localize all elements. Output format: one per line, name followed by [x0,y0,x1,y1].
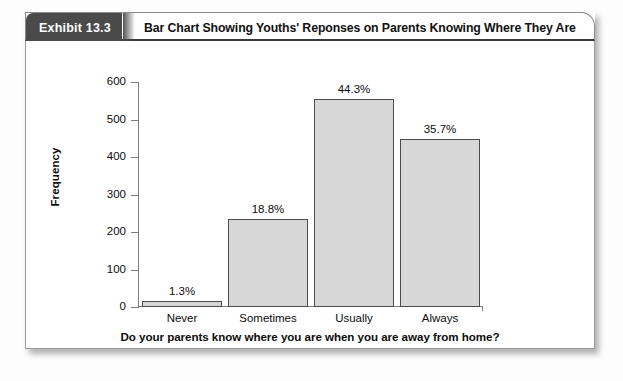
bar-value-label: 18.8% [228,203,308,215]
x-axis-category-label: Sometimes [228,312,308,324]
exhibit-header: Exhibit 13.3 Bar Chart Showing Youths' R… [25,12,595,41]
x-axis-category-label: Always [400,312,480,324]
badge-fade-decoration [123,13,135,42]
exhibit-number-badge: Exhibit 13.3 [26,13,122,42]
bar-chart: Frequency 0100200300400500600 1.3%Never1… [26,41,594,347]
y-axis-tick [131,120,139,121]
y-axis-tick [131,157,139,158]
screenshot-page: Exhibit 13.3 Bar Chart Showing Youths' R… [0,0,623,381]
y-axis-tick [131,195,139,196]
bar-never [142,301,222,307]
exhibit-number-label: Exhibit 13.3 [39,21,111,35]
y-axis-tick [131,307,139,308]
exhibit-title: Bar Chart Showing Youths' Reponses on Pa… [144,13,576,42]
bar-usually [314,99,394,308]
bar-group: 1.3%Never [142,82,222,307]
y-axis-tick [131,232,139,233]
y-axis-tick [131,270,139,271]
bar-group: 44.3%Usually [314,82,394,307]
y-axis-tick [131,82,139,83]
bar-value-label: 1.3% [142,285,222,297]
y-axis-tick-label: 600 [62,75,126,87]
bar-value-label: 35.7% [400,123,480,135]
x-axis-category-label: Never [142,312,222,324]
bar-group: 35.7%Always [400,82,480,307]
y-axis-tick-label: 400 [62,150,126,162]
bar-always [400,139,480,307]
exhibit-card: Exhibit 13.3 Bar Chart Showing Youths' R… [25,12,595,349]
x-axis-title: Do your parents know where you are when … [26,330,594,343]
bar-sometimes [228,219,308,308]
y-axis-tick-label: 500 [62,113,126,125]
x-axis-category-label: Usually [314,312,394,324]
y-axis-tick-label: 0 [62,300,126,312]
bar-value-label: 44.3% [314,83,394,95]
bar-group: 18.8%Sometimes [228,82,308,307]
y-axis-tick-label: 200 [62,225,126,237]
y-axis-tick-label: 100 [62,263,126,275]
bar-series: 1.3%Never18.8%Sometimes44.3%Usually35.7%… [139,82,483,307]
y-axis-title: Frequency [49,117,61,237]
exhibit-body: Frequency 0100200300400500600 1.3%Never1… [25,41,595,349]
y-axis-tick-label: 300 [62,188,126,200]
